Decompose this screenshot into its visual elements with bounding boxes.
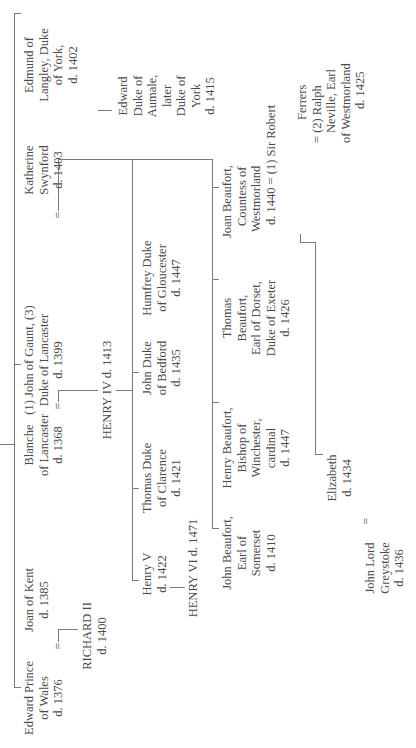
person-edmund-of-langley: Edmund of Langley, Duke of York, d. 1402 [22,28,80,101]
person-humfrey-duke-of-gloucester: Humfrey Duke of Gloucester d. 1447 [140,240,184,315]
person-henry-iv: HENRY IV d. 1413 [100,341,115,440]
marriage-symbol: = [52,643,64,650]
marriage-line [58,160,59,211]
person-john-lord-greystoke: John Lord Greystoke d. 1436 [363,542,407,593]
person-edward-duke-of-aumale: Edward Duke of Aumale, later Duke of Yor… [116,75,218,118]
person-thomas-duke-of-clarence: Thomas Duke of Clarence d. 1421 [140,443,184,513]
descent-line [58,629,78,630]
person-blanche-of-lancaster: Blanche of Lancaster d. 1368 [22,414,66,476]
family-tree-diagram: Edward Prince of Wales d. 1376 = Joan of… [0,0,416,748]
person-john-duke-of-bedford: John Duke of Bedford d. 1435 [140,341,184,396]
person-richard-ii: RICHARD II d. 1400 [80,602,109,670]
descent-line [98,110,112,111]
descent-line [300,242,316,243]
person-henry-beaufort-cardinal: Henry Beaufort, Bishop of Winchester, ca… [220,407,293,488]
marriage-line [58,390,59,402]
person-joan-beaufort-spouses: Ferrers = (2) Ralph Neville, Earl of Wes… [295,63,368,143]
person-john-beaufort-earl-of-somerset: John Beaufort, Earl of Somerset d. 1410 [220,516,278,590]
sibling-bracket-henry-iv-children [132,160,133,581]
descent-line [315,242,316,455]
connector-edmund [14,13,21,14]
connector-henry-v [132,580,139,581]
sibling-bracket-top [14,13,15,688]
sibling-bracket-beauforts [212,159,213,529]
descent-line-beauforts [132,159,212,160]
person-edward-prince-of-wales: Edward Prince of Wales d. 1376 [22,661,66,735]
connector-root [0,444,14,445]
person-elizabeth: Elizabeth d. 1434 [325,454,354,501]
descent-line [170,587,185,588]
person-joan-of-kent: Joan of Kent d. 1385 [22,568,51,632]
connector-thomas-beaufort [212,279,219,280]
person-henry-v: Henry V d. 1422 [140,552,169,595]
connector-john-beaufort [212,528,219,529]
marriage-line [58,629,59,642]
descent-line [58,159,132,160]
marriage-symbol: = [52,212,64,219]
marriage-symbol: = [360,518,372,525]
person-joan-beaufort-countess-of-westmorland: Joan Beaufort, Countess of Westmorland d… [220,105,278,278]
person-thomas-beaufort-duke-of-exeter: Thomas Beaufort, Earl of Dorset, Duke of… [220,280,293,356]
connector-edward [14,687,21,688]
descent-line [315,454,323,455]
connector-thomas-clarence [132,488,139,489]
connector-henry-beaufort [212,402,219,403]
connector-gaunt [14,364,21,365]
descent-line [116,390,132,391]
connector-john-bedford [132,372,139,373]
connector-joan-beaufort [212,187,219,188]
descent-line [58,390,98,391]
person-henry-vi: HENRY VI d. 1471 [186,519,201,618]
